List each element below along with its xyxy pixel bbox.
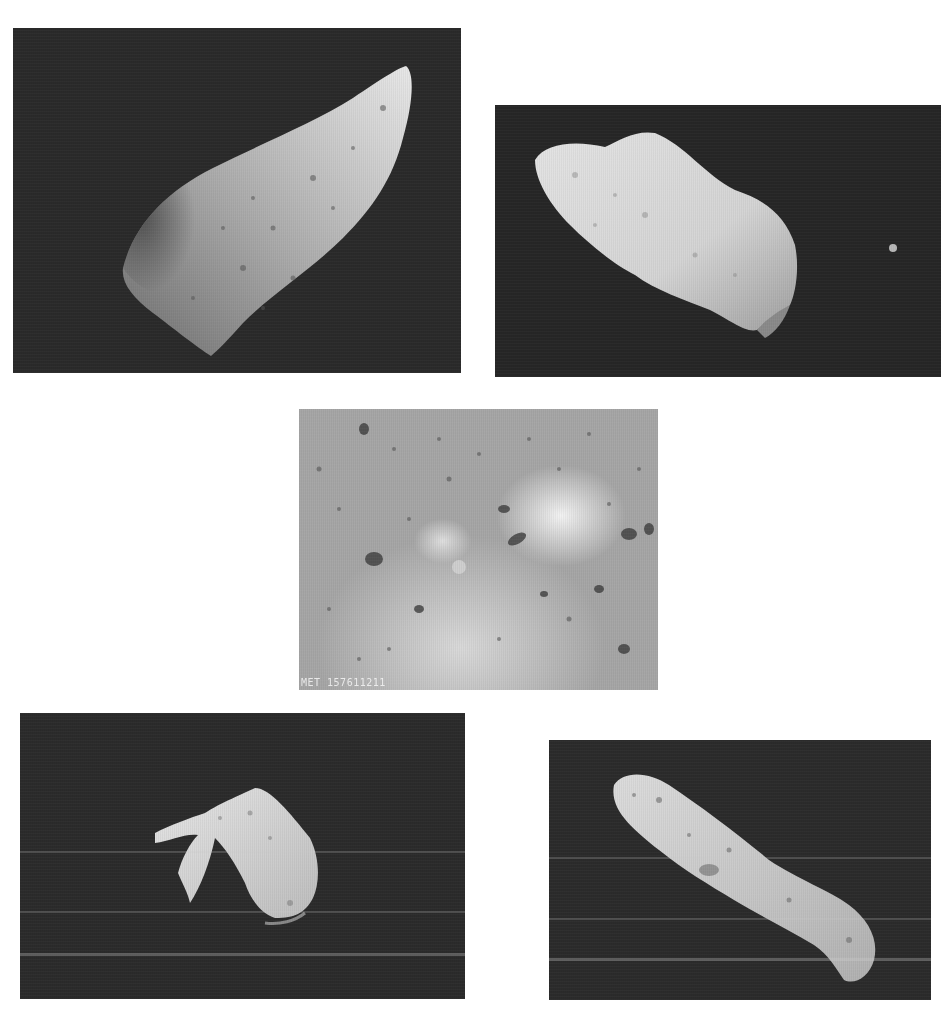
mission-elapsed-time-label: MET 157611211 [301, 677, 386, 688]
moon-dactyl [889, 244, 897, 252]
photo-top-left-asteroid [13, 28, 461, 373]
asteroid-crescent-graphic [20, 713, 465, 999]
asteroid-elongated-graphic [549, 740, 931, 1000]
regolith-surface-graphic [299, 409, 658, 690]
photo-bottom-left-asteroid [20, 713, 465, 999]
photo-middle-surface-closeup: MET 157611211 [299, 409, 658, 690]
asteroid-potato-graphic [495, 105, 941, 377]
photo-bottom-right-asteroid [549, 740, 931, 1000]
photo-top-right-asteroid [495, 105, 941, 377]
asteroid-wedge-graphic [13, 28, 461, 373]
